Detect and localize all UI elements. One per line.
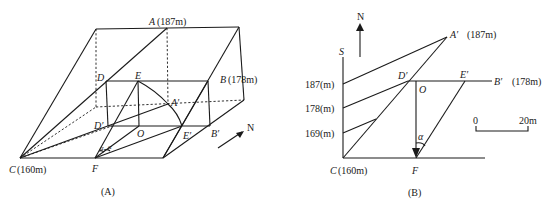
figure-a-labels: A (187m) B (178m) C (160m) D E A′ D′ O E… — [9, 16, 257, 198]
tick-169: 169(m) — [305, 128, 334, 140]
label-s: S — [339, 46, 344, 57]
label-a-prime: A′ — [170, 97, 180, 108]
label-b-prime-b: B′ — [494, 76, 503, 87]
label-b: B — [220, 74, 226, 85]
caption-a: (A) — [101, 186, 115, 198]
label-o: O — [137, 128, 144, 139]
label-e-prime: E′ — [182, 130, 192, 141]
label-c: C — [9, 164, 16, 175]
label-north-b: N — [357, 11, 364, 22]
geology-figure: A (187m) B (178m) C (160m) D E A′ D′ O E… — [0, 0, 551, 212]
figure-b-plan-view — [343, 23, 528, 158]
label-d-prime: D′ — [93, 120, 104, 131]
label-e: E — [134, 70, 141, 81]
label-a-elev: (187m) — [157, 16, 186, 28]
label-c-b: C — [330, 165, 337, 176]
scale-bar-start: 0 — [473, 115, 478, 126]
label-b-prime: B′ — [211, 128, 220, 139]
label-alpha-2: α — [108, 143, 112, 151]
label-d-prime-b: D′ — [397, 70, 408, 81]
label-a: A — [148, 16, 156, 27]
label-c-elev: (160m) — [17, 164, 46, 176]
label-b-elev: (178m) — [228, 74, 257, 86]
label-b-prime-elev: (178m) — [512, 76, 541, 88]
label-d: D — [96, 72, 105, 83]
tick-178: 178(m) — [305, 103, 334, 115]
label-north-a: N — [247, 122, 254, 133]
label-a-prime-elev: (187m) — [467, 29, 496, 41]
label-c-elev-b: (160m) — [338, 165, 367, 177]
scale-bar-end: 20m — [519, 115, 537, 126]
figure-b-labels: N S A′ (187m) D′ E′ B′ (178m) O α C (160… — [305, 11, 541, 199]
caption-b: (B) — [408, 187, 421, 199]
label-o-b: O — [419, 84, 426, 95]
label-e-prime-b: E′ — [459, 69, 469, 80]
label-alpha-1: α — [100, 144, 104, 152]
label-alpha-b: α — [418, 131, 424, 142]
label-f: F — [91, 163, 99, 174]
tick-187: 187(m) — [305, 79, 334, 91]
label-f-b: F — [411, 165, 419, 176]
label-a-prime-b: A′ — [449, 29, 459, 40]
